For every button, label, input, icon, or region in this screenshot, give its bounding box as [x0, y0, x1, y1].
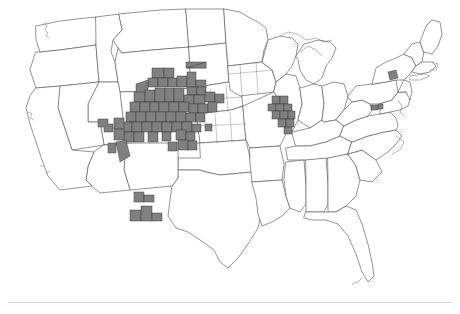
shaded-county: [177, 76, 187, 87]
shaded-county: [268, 104, 276, 111]
shaded-county: [186, 113, 196, 122]
shaded-county: [192, 124, 201, 132]
shaded-county: [144, 195, 154, 202]
shaded-county: [286, 119, 294, 127]
shaded-county: [208, 102, 217, 112]
shaded-county: [134, 132, 144, 142]
shaded-county: [272, 96, 280, 104]
shaded-county: [130, 210, 141, 221]
shaded-county: [205, 124, 212, 131]
shaded-county: [194, 95, 205, 104]
shaded-county: [145, 90, 155, 102]
shaded-county: [284, 104, 292, 111]
state-florida: [304, 206, 374, 282]
us-county-choropleth-map: [0, 0, 460, 314]
shaded-county: [134, 192, 144, 202]
state-alabama: [306, 158, 328, 212]
shaded-county: [280, 111, 288, 119]
shaded-county: [155, 88, 165, 102]
shaded-county: [179, 102, 189, 112]
shaded-cluster-maryland-dc: [371, 104, 383, 110]
long-island-detail: [410, 74, 430, 80]
shaded-county: [168, 78, 177, 87]
shaded-county: [148, 78, 158, 87]
shaded-county: [152, 122, 162, 132]
shaded-county: [114, 129, 124, 140]
state-maine: [420, 20, 442, 54]
shaded-county: [134, 92, 145, 102]
shaded-county: [278, 119, 286, 127]
shaded-county: [189, 104, 198, 113]
shaded-county: [197, 87, 206, 95]
shaded-county: [152, 213, 162, 221]
shaded-cluster-new-york: [388, 70, 398, 80]
shaded-county: [284, 127, 292, 134]
shaded-county: [148, 132, 158, 142]
shaded-cluster-new-mexico: [130, 192, 162, 221]
florida-keys-detail: [352, 278, 362, 284]
shaded-county: [146, 112, 156, 122]
state-north-dakota: [186, 9, 226, 47]
shaded-county: [162, 122, 172, 132]
state-outlines-layer: [26, 9, 442, 282]
shaded-county: [176, 130, 186, 140]
state-new-york: [372, 54, 416, 84]
shaded-county: [165, 88, 174, 102]
shaded-county: [114, 118, 124, 129]
shaded-county: [156, 112, 166, 122]
shaded-county: [176, 112, 186, 122]
shaded-county: [205, 92, 215, 102]
shaded-county: [187, 72, 196, 87]
shaded-county: [198, 104, 208, 113]
shaded-county: [186, 132, 195, 141]
shaded-county: [142, 122, 152, 132]
shaded-county: [276, 104, 284, 111]
shaded-county: [169, 102, 179, 112]
shaded-county: [150, 102, 159, 112]
shaded-county: [166, 112, 176, 122]
shaded-county: [388, 70, 398, 80]
shaded-county: [168, 142, 177, 151]
state-texas: [168, 170, 262, 268]
figure-root: [0, 0, 460, 314]
shaded-county: [288, 111, 295, 119]
state-minnesota: [224, 9, 268, 66]
shaded-county: [371, 105, 378, 110]
shaded-cluster-central-kansas-isolate: [205, 124, 212, 131]
shaded-county: [140, 102, 150, 112]
shaded-county: [141, 206, 152, 221]
shaded-county: [152, 68, 164, 78]
shaded-county: [215, 94, 224, 103]
shaded-county: [132, 122, 142, 132]
shaded-county: [188, 141, 197, 150]
shaded-county: [196, 113, 205, 122]
footer-divider-rule: [8, 302, 452, 303]
shaded-county: [130, 102, 140, 112]
shaded-county: [178, 140, 188, 150]
shaded-county: [174, 88, 184, 102]
state-arkansas: [250, 146, 284, 182]
shaded-county: [378, 104, 383, 109]
state-michigan: [296, 40, 336, 84]
shaded-county: [159, 102, 169, 112]
shaded-county: [162, 132, 171, 141]
shaded-county: [108, 143, 116, 153]
state-montana: [113, 9, 189, 53]
shaded-county: [272, 111, 280, 119]
shaded-county: [158, 78, 168, 87]
shaded-county: [126, 112, 136, 122]
shaded-county: [164, 68, 174, 78]
shaded-county: [280, 96, 288, 104]
shaded-county: [136, 112, 146, 122]
shaded-county: [187, 87, 197, 95]
